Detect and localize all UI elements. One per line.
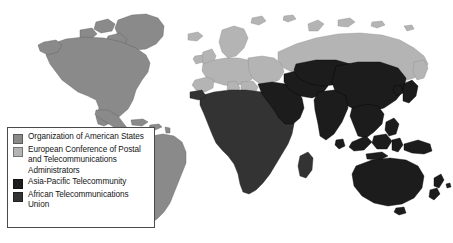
map-legend: Organization of American States European… [7,127,155,228]
region-lesser-antilles [165,127,170,133]
legend-item-atu: African Telecommunications Union [13,190,150,211]
legend-label-atu: African Telecommunications Union [28,190,150,211]
legend-item-oas: Organization of American States [13,132,150,144]
legend-label-cept: European Conference of Postal and Teleco… [28,145,150,176]
legend-label-apt: Asia-Pacific Telecommunity [28,177,126,187]
legend-swatch-atu [13,192,23,202]
legend-item-apt: Asia-Pacific Telecommunity [13,177,150,189]
legend-swatch-oas [13,134,23,144]
region-pacific-islands [446,183,451,188]
legend-swatch-cept [13,147,23,157]
legend-label-oas: Organization of American States [28,132,144,142]
legend-item-cept: European Conference of Postal and Teleco… [13,145,150,176]
world-map-figure: Organization of American States European… [0,0,453,243]
legend-swatch-apt [13,179,23,189]
